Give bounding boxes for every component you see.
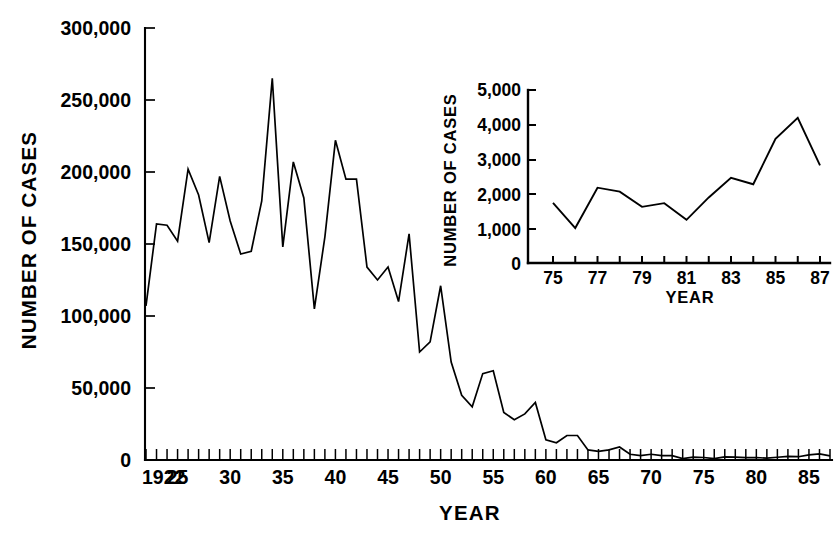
x-tick-label: 70: [640, 466, 662, 488]
x-tick-label: 45: [377, 466, 399, 488]
x-tick-label: 35: [272, 466, 294, 488]
inset-y-tick-label: 0: [511, 254, 521, 274]
main-x-axis-title: YEAR: [439, 501, 501, 524]
inset-x-axis-title: YEAR: [665, 288, 714, 306]
inset-y-axis-title: NUMBER OF CASES: [441, 93, 459, 266]
inset-chart: NUMBER OF CASES 5,000 4,000 3,000 2,000 …: [441, 80, 830, 306]
x-tick-label: 75: [543, 268, 563, 288]
main-x-ticks: [146, 449, 830, 460]
main-y-axis-title: NUMBER OF CASES: [17, 131, 40, 349]
inset-y-tick-label: 5,000: [477, 80, 521, 100]
x-tick-label: 30: [219, 466, 241, 488]
inset-data-line: [553, 118, 820, 228]
x-tick-label: 65: [588, 466, 610, 488]
x-tick-label: 50: [430, 466, 452, 488]
inset-x-tick-labels: 75777981838587: [543, 268, 829, 288]
x-tick-label: 87: [810, 268, 829, 288]
x-tick-label: 85: [766, 268, 786, 288]
chart-svg: NUMBER OF CASES 300,000 250,000 200,000 …: [0, 0, 838, 534]
inset-y-tick-label: 2,000: [477, 185, 521, 205]
x-tick-label: 25: [167, 466, 189, 488]
main-y-tick-label: 0: [120, 449, 131, 471]
main-y-tick-labels: 300,000 250,000 200,000 150,000 100,000 …: [61, 17, 132, 471]
x-tick-label: 77: [588, 268, 607, 288]
main-y-tick-label: 150,000: [61, 233, 132, 255]
inset-y-tick-label: 3,000: [477, 150, 521, 170]
x-tick-label: 81: [677, 268, 697, 288]
main-y-tick-label: 200,000: [61, 161, 132, 183]
inset-y-tick-labels: 5,000 4,000 3,000 2,000 1,000 0: [477, 80, 521, 274]
main-y-tick-label: 50,000: [71, 377, 131, 399]
x-tick-label: 79: [632, 268, 652, 288]
x-tick-label: 83: [721, 268, 741, 288]
x-tick-label: 80: [745, 466, 767, 488]
x-tick-label: 60: [535, 466, 557, 488]
x-tick-label: 40: [325, 466, 347, 488]
inset-y-tick-label: 1,000: [477, 220, 521, 240]
x-tick-label: 55: [482, 466, 504, 488]
main-y-tick-label: 300,000: [61, 17, 132, 39]
pertussis-cases-figure: NUMBER OF CASES 300,000 250,000 200,000 …: [0, 0, 838, 534]
main-y-tick-label: 100,000: [61, 305, 132, 327]
x-tick-label: 85: [798, 466, 820, 488]
inset-y-tick-label: 4,000: [477, 115, 521, 135]
main-chart: NUMBER OF CASES 300,000 250,000 200,000 …: [17, 17, 832, 524]
main-x-tick-labels: 192225303540455055606570758085: [142, 466, 820, 488]
x-tick-label: 75: [693, 466, 715, 488]
main-y-tick-label: 250,000: [61, 89, 132, 111]
